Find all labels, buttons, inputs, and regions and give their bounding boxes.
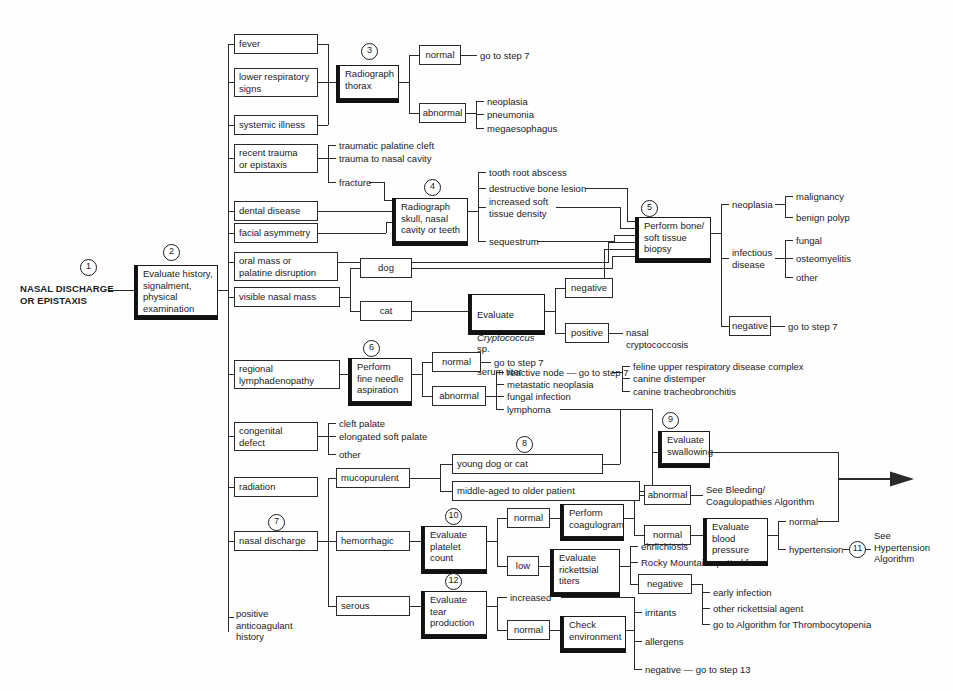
- label-fracture: fracture: [339, 177, 371, 189]
- node-evaluate-tear-production[interactable]: Evaluate tear production: [424, 591, 487, 635]
- node-middle-aged-patient[interactable]: middle-aged to older patient: [452, 481, 640, 501]
- node-oral-mass[interactable]: oral mass or palatine disruption: [234, 252, 338, 281]
- label-lymphoma: lymphoma: [507, 404, 551, 416]
- label-malignancy: malignancy: [796, 191, 844, 203]
- label-early-infection: early infection: [713, 587, 772, 599]
- node-regional-lymphadenopathy[interactable]: regional lymphadenopathy: [234, 360, 340, 389]
- node-dental-disease[interactable]: dental disease: [234, 201, 318, 221]
- label-reactive-node: reactive node — go to step 7: [507, 367, 628, 379]
- label-tear-increased: increased: [510, 592, 551, 604]
- node-tear-normal[interactable]: normal: [507, 620, 550, 640]
- label-sequestrum: sequestrum: [489, 236, 539, 248]
- node-mucopurulent[interactable]: mucopurulent: [336, 468, 410, 488]
- node-evaluate-history[interactable]: Evaluate history, signalment, physical e…: [137, 265, 218, 316]
- node-crypto-positive[interactable]: positive: [565, 323, 609, 343]
- label-ehrlichiosis: ehrlichiosis: [641, 541, 688, 553]
- label-feline-urd-complex: feline upper respiratory disease complex: [633, 361, 804, 373]
- step-number-12: 12: [445, 573, 462, 590]
- node-perform-coagulogram[interactable]: Perform coagulogram: [563, 504, 624, 537]
- node-fna-normal[interactable]: normal: [432, 352, 481, 372]
- node-evaluate-blood-pressure[interactable]: Evaluate blood pressure: [706, 518, 768, 562]
- step-number-9: 9: [662, 412, 679, 429]
- node-platelet-low[interactable]: low: [507, 556, 539, 576]
- label-neoplasia-thorax: neoplasia: [487, 96, 528, 108]
- label-canine-distemper: canine distemper: [633, 373, 705, 385]
- node-biopsy-negative[interactable]: negative: [729, 316, 771, 336]
- step-number-8: 8: [516, 436, 533, 453]
- step-number-5: 5: [641, 200, 658, 217]
- node-crypto-negative[interactable]: negative: [565, 278, 613, 298]
- node-lower-respiratory-signs[interactable]: lower respiratory signs: [234, 68, 318, 97]
- label-see-bleeding-algorithm: See Bleeding/ Coagulopathies Algorithm: [706, 484, 814, 507]
- label-elongated-soft-palate: elongated soft palate: [339, 431, 427, 443]
- label-megaesophagus: megaesophagus: [487, 123, 557, 135]
- node-radiograph-skull[interactable]: Radiograph skull, nasal cavity or teeth: [395, 198, 468, 242]
- crypto-line-1: Evaluate: [477, 309, 514, 320]
- node-recent-trauma[interactable]: recent trauma or epistaxis: [234, 144, 318, 173]
- label-see-hypertension-algorithm: See Hypertension Algorithm: [874, 530, 930, 565]
- label-environment-negative: negative — go to step 13: [645, 664, 751, 676]
- node-perform-biopsy[interactable]: Perform bone/ soft tissue biopsy: [638, 217, 711, 259]
- node-evaluate-rickettsial-titers[interactable]: Evaluate rickettsial titers: [553, 549, 620, 593]
- label-rocky-mountain-spotted-fever: Rocky Mountain spotted fever: [641, 557, 767, 569]
- node-congenital-defect[interactable]: congenital defect: [234, 422, 318, 451]
- node-fever[interactable]: fever: [234, 34, 318, 54]
- node-fine-needle-aspiration[interactable]: Perform fine needle aspiration: [351, 358, 412, 402]
- node-rickettsial-negative[interactable]: negative: [638, 574, 692, 594]
- label-other-rickettsial-agent: other rickettsial agent: [713, 603, 803, 615]
- node-platelet-normal[interactable]: normal: [507, 508, 550, 528]
- algorithm-diagram: 1 NASAL DISCHARGE OR EPISTAXIS 2 Evaluat…: [0, 0, 953, 691]
- label-nasal-cryptococcosis: nasal cryptococcosis: [626, 327, 688, 350]
- label-fungal: fungal: [796, 235, 822, 247]
- step-number-10: 10: [445, 508, 462, 525]
- node-serous[interactable]: serous: [336, 596, 410, 616]
- label-metastatic-neoplasia: metastatic neoplasia: [507, 379, 594, 391]
- label-positive-anticoagulant-history: positive anticoagulant history: [236, 608, 293, 643]
- node-visible-nasal-mass[interactable]: visible nasal mass: [234, 287, 340, 307]
- node-coag-abnormal[interactable]: abnormal: [644, 485, 691, 505]
- label-pneumonia: pneumonia: [487, 109, 534, 121]
- label-trauma-nasal-cavity: trauma to nasal cavity: [339, 153, 431, 165]
- label-osteomyelitis: osteomyelitis: [796, 253, 851, 265]
- node-dog[interactable]: dog: [360, 258, 412, 278]
- step-number-11: 11: [849, 541, 866, 558]
- node-systemic-illness[interactable]: systemic illness: [234, 115, 318, 135]
- label-biopsy-negative-outcome: go to step 7: [788, 321, 838, 333]
- label-irritants: irritants: [645, 607, 676, 619]
- label-allergens: allergens: [645, 636, 684, 648]
- node-radiation[interactable]: radiation: [234, 477, 318, 497]
- node-hemorrhagic[interactable]: hemorrhagic: [336, 531, 410, 551]
- node-fna-abnormal[interactable]: abnormal: [432, 386, 486, 406]
- flow-arrowhead: [890, 472, 914, 487]
- label-benign-polyp: benign polyp: [796, 212, 850, 224]
- label-increased-soft-tissue-density: increased soft tissue density: [489, 196, 548, 219]
- node-cat[interactable]: cat: [360, 301, 412, 321]
- step-number-4: 4: [424, 179, 441, 196]
- label-bp-hypertension: hypertension: [789, 544, 843, 556]
- entry-label: NASAL DISCHARGE OR EPISTAXIS: [20, 283, 130, 306]
- node-check-environment[interactable]: Check environment: [563, 616, 626, 649]
- node-nasal-discharge[interactable]: nasal discharge: [234, 531, 318, 551]
- label-biopsy-neoplasia: neoplasia: [732, 199, 773, 211]
- step-number-7: 7: [268, 514, 285, 531]
- step-number-6: 6: [363, 340, 380, 357]
- label-go-to-thrombocytopenia: go to Algorithm for Thrombocytopenia: [713, 619, 871, 631]
- node-young-dog-or-cat[interactable]: young dog or cat: [452, 454, 603, 474]
- node-evaluate-cryptococcus[interactable]: Evaluate Cryptococcus sp. serum titer: [471, 294, 545, 331]
- node-thorax-abnormal[interactable]: abnormal: [419, 103, 466, 123]
- step-number-3: 3: [361, 43, 378, 60]
- step-number-2: 2: [163, 244, 180, 261]
- label-other-congenital: other: [339, 449, 361, 461]
- node-evaluate-platelet-count[interactable]: Evaluate platelet count: [424, 526, 487, 570]
- label-bp-normal: normal: [789, 516, 818, 528]
- step-number-1: 1: [80, 259, 97, 276]
- label-thorax-normal-outcome: go to step 7: [480, 50, 530, 62]
- node-facial-asymmetry[interactable]: facial asymmetry: [234, 223, 318, 243]
- label-destructive-bone-lesion: destructive bone lesion: [489, 183, 586, 195]
- label-canine-tracheobronchitis: canine tracheobronchitis: [633, 386, 736, 398]
- node-radiograph-thorax[interactable]: Radiograph thorax: [339, 65, 399, 99]
- node-evaluate-swallowing[interactable]: Evaluate swallowing: [661, 431, 710, 464]
- label-other-infectious: other: [796, 272, 818, 284]
- label-infectious-disease: infectious disease: [732, 247, 772, 270]
- node-thorax-normal[interactable]: normal: [419, 45, 461, 65]
